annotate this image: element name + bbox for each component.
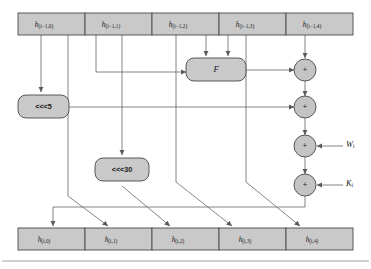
output-box-h-i-2[interactable] [152, 228, 219, 250]
rot30-label: <<<30 [112, 165, 133, 174]
output-box-h-i-1[interactable] [85, 228, 152, 250]
label-round-constant: Ki [345, 179, 354, 189]
adder-rot5[interactable]: + [294, 96, 316, 118]
rotate-left-5-box[interactable]: <<<5 [18, 95, 69, 118]
input-register-row: h(i−1,0) h(i−1,1) h(i−1,2) h(i−1,3) h(i−… [18, 13, 353, 35]
f-box-label: F [212, 64, 219, 74]
wire-rot30-to-out2 [122, 186, 170, 226]
wire-h3-to-out4 [246, 35, 300, 226]
output-box-h-i-0[interactable] [18, 228, 85, 250]
output-box-h-i-4[interactable] [286, 228, 353, 250]
rot5-label: <<<5 [35, 102, 52, 111]
label-word-input: Wi [346, 140, 355, 150]
output-register-row: h(i,0) h(i,1) h(i,2) h(i,3) h(i,4) [18, 228, 353, 250]
wire-h0-to-out1 [68, 35, 108, 226]
figure-root: h(i−1,0) h(i−1,1) h(i−1,2) h(i−1,3) h(i−… [0, 0, 371, 269]
wire-adder-k-to-out0 [53, 196, 305, 226]
adder-rot5-symbol: + [303, 102, 308, 111]
adder-k-symbol: + [303, 180, 308, 189]
function-box-f[interactable]: F [186, 58, 246, 81]
adder-k[interactable]: + [294, 174, 316, 196]
adder-f[interactable]: + [294, 59, 316, 81]
adder-w-symbol: + [303, 141, 308, 150]
adder-f-symbol: + [303, 65, 308, 74]
rotate-left-30-box[interactable]: <<<30 [95, 158, 149, 181]
adder-w[interactable]: + [294, 135, 316, 157]
output-box-h-i-3[interactable] [219, 228, 286, 250]
wire-h1-to-f [96, 35, 186, 72]
sha1-round-diagram: h(i−1,0) h(i−1,1) h(i−1,2) h(i−1,3) h(i−… [0, 0, 371, 269]
